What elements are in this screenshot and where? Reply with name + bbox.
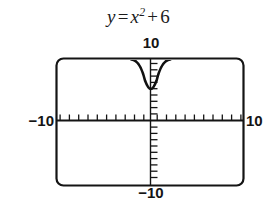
x-min-label: −10: [6, 112, 54, 129]
x-max-label: 10: [246, 112, 276, 129]
y-min-label: −10: [113, 184, 189, 201]
y-max-label: 10: [113, 34, 189, 51]
plot-area: [0, 0, 277, 212]
graph-figure: y=x2+6: [0, 0, 277, 212]
